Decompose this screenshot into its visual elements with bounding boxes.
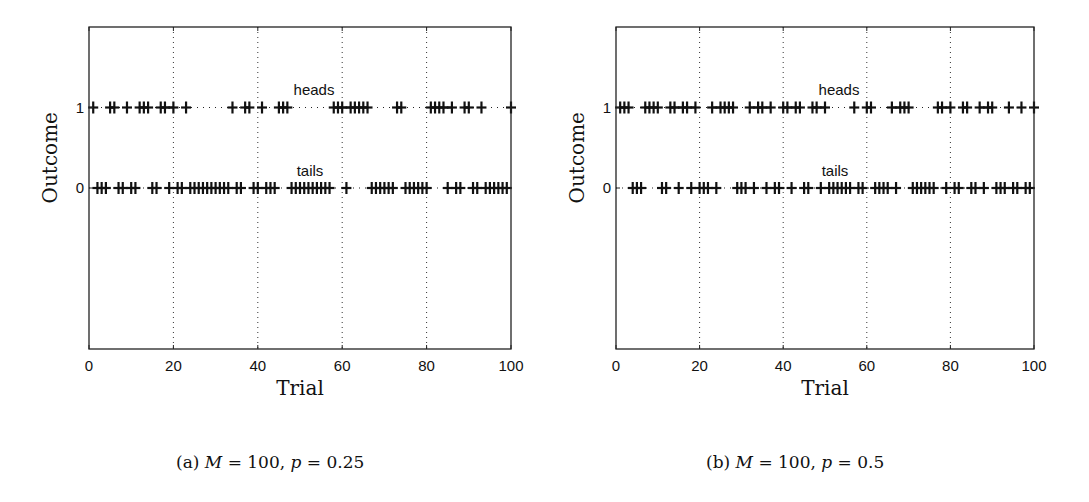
subplot-a: 02040608010001headstailsTrialOutcome (a)…: [0, 0, 540, 502]
x-tick-label: 60: [858, 357, 875, 374]
caption-b-p-var: p: [821, 452, 832, 472]
x-tick-label: 80: [942, 357, 959, 374]
x-tick-label: 100: [498, 357, 523, 374]
heads-label: heads: [819, 81, 860, 98]
caption-b: (b) M = 100, p = 0.5: [706, 452, 884, 472]
x-axis-label: Trial: [801, 376, 849, 400]
x-tick-label: 80: [418, 357, 435, 374]
y-tick-label: 1: [76, 99, 84, 116]
x-tick-label: 100: [1021, 357, 1046, 374]
caption-b-label: (b): [706, 452, 730, 472]
x-tick-label: 60: [334, 357, 351, 374]
caption-a-label: (a): [176, 452, 199, 472]
y-axis-label: Outcome: [38, 112, 62, 203]
x-tick-label: 40: [249, 357, 266, 374]
x-tick-label: 20: [691, 357, 708, 374]
caption-b-m-val: = 100,: [753, 452, 821, 472]
caption-a-m-var: M: [205, 452, 222, 472]
subplot-b: 02040608010001headstailsTrialOutcome (b)…: [528, 0, 1068, 502]
x-tick-label: 0: [612, 357, 620, 374]
x-axis-label: Trial: [276, 376, 324, 400]
y-tick-label: 0: [603, 179, 611, 196]
caption-a: (a) M = 100, p = 0.25: [176, 452, 364, 472]
tails-label: tails: [822, 162, 849, 179]
tails-label: tails: [297, 162, 324, 179]
y-axis-label: Outcome: [565, 112, 589, 203]
plot-area-b: 02040608010001headstailsTrialOutcome: [528, 0, 1068, 440]
caption-a-p-var: p: [291, 452, 302, 472]
plot-area-a: 02040608010001headstailsTrialOutcome: [0, 0, 540, 440]
caption-a-m-val: = 100,: [222, 452, 290, 472]
caption-b-p-val: = 0.5: [832, 452, 884, 472]
caption-a-p-val: = 0.25: [301, 452, 364, 472]
x-tick-label: 40: [775, 357, 792, 374]
caption-b-m-var: M: [736, 452, 753, 472]
y-tick-label: 1: [603, 99, 611, 116]
x-tick-label: 0: [85, 357, 93, 374]
y-tick-label: 0: [76, 179, 84, 196]
heads-label: heads: [294, 81, 335, 98]
x-tick-label: 20: [165, 357, 182, 374]
